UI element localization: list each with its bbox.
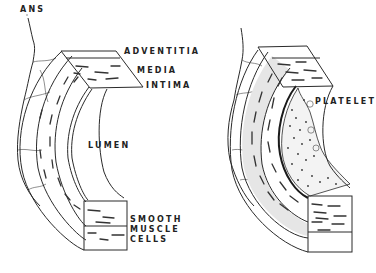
ans-nerve	[17, 18, 40, 206]
label-ans: ANS	[20, 5, 45, 15]
diagram-canvas: ANS ADVENTITIA MEDIA INTIMA LUMEN SMOOTH…	[0, 0, 376, 273]
label-muscle: MUSCLE	[130, 225, 183, 235]
label-adventitia: ADVENTITIA	[124, 47, 200, 57]
label-media: MEDIA	[137, 66, 177, 76]
label-smooth: SMOOTH	[130, 215, 183, 225]
label-lumen: LUMEN	[88, 141, 130, 151]
right-vessel-segment	[228, 28, 352, 252]
label-platelet: PLATELET	[315, 97, 376, 107]
label-cells: CELLS	[130, 235, 183, 245]
label-intima: INTIMA	[146, 81, 191, 91]
label-smooth-muscle-cells: SMOOTH MUSCLE CELLS	[130, 215, 183, 245]
